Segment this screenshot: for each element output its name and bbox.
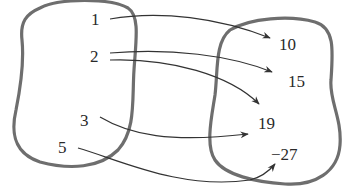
domain-element-2: 2 <box>90 47 99 66</box>
domain-element-3: 3 <box>80 111 89 130</box>
range-element-neg27: −27 <box>271 145 298 164</box>
range-element-15: 15 <box>288 72 305 91</box>
domain-element-1: 1 <box>91 10 100 29</box>
range-element-19: 19 <box>258 114 275 133</box>
domain-element-5: 5 <box>58 138 67 157</box>
mapping-diagram: 1 2 3 5 10 15 19 −27 <box>0 0 343 186</box>
domain-set-outline <box>14 1 136 167</box>
range-element-10: 10 <box>279 35 296 54</box>
arrow-3-to-19 <box>100 117 248 138</box>
